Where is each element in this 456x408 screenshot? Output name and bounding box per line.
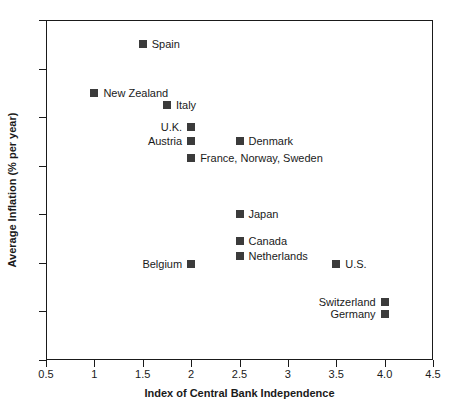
y-axis-tick: [39, 214, 46, 215]
data-point-label: Denmark: [249, 134, 294, 148]
data-point-marker[interactable]: [187, 260, 195, 268]
data-point-label: Netherlands: [249, 249, 308, 263]
y-axis-tick: [39, 311, 46, 312]
x-axis-tick: [94, 360, 95, 367]
y-axis-tick: [39, 263, 46, 264]
data-point-marker[interactable]: [332, 260, 340, 268]
data-point-marker[interactable]: [163, 101, 171, 109]
data-point-marker[interactable]: [381, 310, 389, 318]
x-axis-tick: [336, 360, 337, 367]
x-axis-tick-label: 2: [171, 369, 211, 380]
x-axis-tick: [240, 360, 241, 367]
y-axis-title: Average Inflation (% per year): [4, 20, 20, 360]
data-point-marker[interactable]: [236, 237, 244, 245]
data-point-marker[interactable]: [236, 210, 244, 218]
data-point-marker[interactable]: [381, 298, 389, 306]
y-axis-tick: [39, 20, 46, 21]
x-axis-tick-label: 1.5: [123, 369, 163, 380]
x-axis-tick: [46, 360, 47, 367]
data-point-marker[interactable]: [187, 123, 195, 131]
data-point-label: Belgium: [142, 257, 182, 271]
x-axis-tick: [288, 360, 289, 367]
data-point-marker[interactable]: [139, 40, 147, 48]
x-axis-tick: [433, 360, 434, 367]
x-axis-tick-label: 1: [74, 369, 114, 380]
data-point-label: Italy: [176, 98, 196, 112]
data-point-label: U.S.: [345, 257, 366, 271]
x-axis-tick-label: 4.5: [413, 369, 453, 380]
x-axis-tick-label: 0.5: [26, 369, 66, 380]
data-point-label: France, Norway, Sweden: [200, 151, 323, 165]
x-axis-tick-label: 3.5: [316, 369, 356, 380]
data-point-label: Spain: [152, 37, 180, 51]
data-point-marker[interactable]: [90, 89, 98, 97]
data-point-marker[interactable]: [187, 137, 195, 145]
data-point-label: New Zealand: [103, 86, 168, 100]
scatter-chart-figure: 23456789 0.511.522.533.54.04.5 SpainNew …: [0, 0, 456, 408]
x-axis-tick: [143, 360, 144, 367]
data-point-label: U.K.: [161, 120, 182, 134]
y-axis-tick: [39, 166, 46, 167]
data-point-label: Austria: [148, 134, 182, 148]
y-axis-tick: [39, 117, 46, 118]
data-point-label: Canada: [249, 234, 288, 248]
data-point-marker[interactable]: [236, 137, 244, 145]
x-axis-tick-label: 3: [268, 369, 308, 380]
y-axis-tick: [39, 69, 46, 70]
data-point-label: Germany: [330, 307, 375, 321]
data-point-marker[interactable]: [236, 252, 244, 260]
x-axis-title: Index of Central Bank Independence: [46, 386, 433, 400]
y-axis-tick: [39, 360, 46, 361]
x-axis-tick-label: 2.5: [220, 369, 260, 380]
data-point-marker[interactable]: [187, 154, 195, 162]
x-axis-tick: [191, 360, 192, 367]
data-point-label: Japan: [249, 207, 279, 221]
x-axis-tick: [385, 360, 386, 367]
x-axis-tick-label: 4.0: [365, 369, 405, 380]
